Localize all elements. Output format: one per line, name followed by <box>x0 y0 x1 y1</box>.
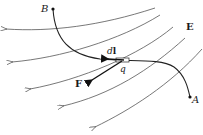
field-line-2 <box>12 15 160 62</box>
point-b <box>51 7 54 10</box>
field-line-3 <box>30 27 173 89</box>
label-e: E <box>186 21 194 32</box>
label-dl-l: l <box>113 46 117 56</box>
label-f: F <box>75 78 82 89</box>
force-vector <box>92 61 122 80</box>
label-b: B <box>40 3 48 14</box>
label-a: A <box>191 94 199 105</box>
diagram-canvas: B A E F dl q <box>0 0 203 135</box>
field-lines <box>6 8 202 127</box>
field-line-1 <box>6 8 155 30</box>
dl-vector <box>108 59 124 60</box>
label-dl: dl <box>107 46 117 56</box>
label-q: q <box>120 64 126 74</box>
